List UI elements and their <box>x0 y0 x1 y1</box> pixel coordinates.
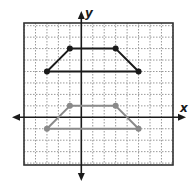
y-axis-arrow-down-icon <box>78 173 85 181</box>
vertex-point <box>113 46 119 52</box>
axes <box>12 11 186 181</box>
vertex-point <box>67 46 73 52</box>
trapezoid-shapes <box>44 46 142 132</box>
vertex-point <box>67 103 73 109</box>
vertex-point <box>136 69 142 75</box>
x-axis-arrow-left-icon <box>12 114 20 121</box>
x-axis-label: x <box>179 101 189 115</box>
grid-lines <box>24 23 173 165</box>
y-axis-label: y <box>85 6 94 20</box>
vertex-point <box>113 103 119 109</box>
coordinate-plane: x y <box>0 0 196 186</box>
y-axis-arrow-up-icon <box>78 11 85 19</box>
vertex-point <box>136 126 142 132</box>
vertex-point <box>44 69 50 75</box>
vertex-point <box>44 126 50 132</box>
